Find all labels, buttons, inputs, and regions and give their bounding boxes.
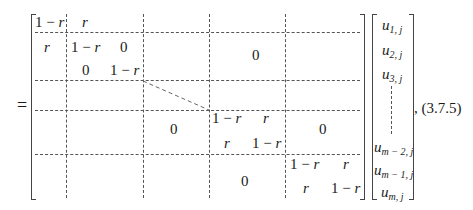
cell-block1-r1c1: 1 − r [35,15,64,30]
vector-entry-m: um, j [381,184,404,202]
cell-last-r1c2: r [343,157,349,172]
middle-right-zero: 0 [319,122,327,137]
vector-entry-2: u2, j [382,42,402,60]
cell-block2-r2c3: 1 − r [110,63,139,78]
upper-zero-block: 0 [252,48,260,63]
cell-last-r1c1: 1 − r [290,157,319,172]
lower-zero-block: 0 [241,174,249,189]
cell-block1-r1c2: r [82,15,88,30]
vector-entry-m-2: um − 2, j [374,139,413,157]
vector-vertical-ellipsis [391,86,392,134]
middle-left-zero: 0 [170,122,178,137]
cell-middle-r1c1: 1 − r [212,111,241,126]
cell-block2-r2c2: 0 [82,63,90,78]
equation-number: , (3.7.5) [414,101,462,116]
vector-entry-m-1: um − 1, j [374,162,413,180]
vector-entry-1: u1, j [382,17,402,35]
cell-block2-r1c1: r [44,40,50,55]
vector-entry-3: u3, j [382,66,402,84]
cell-middle-r2c2: 1 − r [252,136,281,151]
cell-last-r2c1: r [303,181,309,196]
cell-middle-r2c1: r [224,136,230,151]
cell-block2-r1c2: 1 − r [71,40,100,55]
cell-middle-r1c2: r [263,111,269,126]
cell-block2-r1c3: 0 [120,40,128,55]
cell-last-r2c2: 1 − r [331,181,360,196]
